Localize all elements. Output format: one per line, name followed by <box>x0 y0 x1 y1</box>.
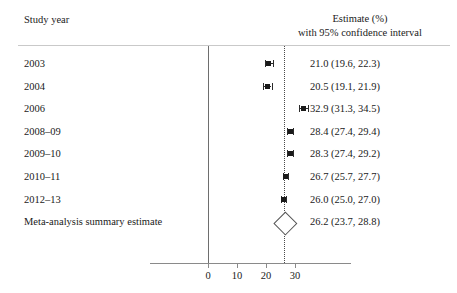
row-label-study-year: 2008–09 <box>24 126 61 138</box>
forest-row: 200321.0 (19.6, 22.3) <box>0 58 457 80</box>
column-header-estimate-line2: with 95% confidence interval <box>268 26 452 40</box>
row-label-study-year: 2004 <box>24 81 45 93</box>
row-estimate-value: 26.7 (25.7, 27.7) <box>310 171 450 183</box>
row-estimate-value: 32.9 (31.3, 34.5) <box>310 103 450 115</box>
row-estimate-value: 20.5 (19.1, 21.9) <box>310 81 450 93</box>
x-axis-tick-label: 0 <box>193 270 223 282</box>
row-label-study-year: 2010–11 <box>24 171 60 183</box>
ci-cap-upper <box>288 173 289 180</box>
row-estimate-value: 21.0 (19.6, 22.3) <box>310 58 450 70</box>
ci-cap-upper <box>293 128 294 135</box>
forest-row: 2009–1028.3 (27.4, 29.2) <box>0 148 457 170</box>
ci-cap-upper <box>286 196 287 203</box>
point-estimate-marker <box>266 61 271 66</box>
row-estimate-value: 26.2 (23.7, 28.8) <box>310 216 450 228</box>
ci-cap-upper <box>308 105 309 112</box>
row-label-study-year: 2006 <box>24 103 45 115</box>
row-label-study-year: Meta-analysis summary estimate <box>24 216 162 228</box>
x-axis-tick <box>237 263 238 268</box>
x-axis-tick-label: 20 <box>251 270 281 282</box>
ci-cap-upper <box>293 150 294 157</box>
row-estimate-value: 28.3 (27.4, 29.2) <box>310 148 450 160</box>
ci-cap-upper <box>272 83 273 90</box>
row-label-study-year: 2012–13 <box>24 194 61 206</box>
column-header-study-year: Study year <box>24 14 69 25</box>
point-estimate-marker <box>265 84 270 89</box>
x-axis-line <box>150 263 351 264</box>
row-estimate-value: 28.4 (27.4, 29.4) <box>310 126 450 138</box>
point-estimate-marker <box>283 174 288 179</box>
forest-plot: Study year Estimate (%) with 95% confide… <box>0 0 457 293</box>
point-estimate-marker <box>288 151 293 156</box>
forest-row: 200632.9 (31.3, 34.5) <box>0 103 457 125</box>
forest-row: Meta-analysis summary estimate26.2 (23.7… <box>0 216 457 238</box>
column-header-estimate: Estimate (%) with 95% confidence interva… <box>268 12 452 40</box>
column-header-estimate-line1: Estimate (%) <box>268 12 452 26</box>
row-label-study-year: 2009–10 <box>24 148 61 160</box>
x-axis-tick-label: 30 <box>280 270 310 282</box>
ci-cap-upper <box>273 60 274 67</box>
row-estimate-value: 26.0 (25.0, 27.0) <box>310 194 450 206</box>
point-estimate-marker <box>288 129 293 134</box>
header-divider <box>18 45 450 46</box>
point-estimate-marker <box>301 106 306 111</box>
ci-cap-lower <box>299 105 300 112</box>
x-axis-tick <box>208 263 209 268</box>
forest-row: 2010–1126.7 (25.7, 27.7) <box>0 171 457 193</box>
x-axis-tick-label: 10 <box>222 270 252 282</box>
x-axis-tick <box>295 263 296 268</box>
forest-row: 200420.5 (19.1, 21.9) <box>0 81 457 103</box>
x-axis-tick <box>266 263 267 268</box>
row-label-study-year: 2003 <box>24 58 45 70</box>
forest-row: 2012–1326.0 (25.0, 27.0) <box>0 194 457 216</box>
point-estimate-marker <box>281 197 286 202</box>
forest-row: 2008–0928.4 (27.4, 29.4) <box>0 126 457 148</box>
